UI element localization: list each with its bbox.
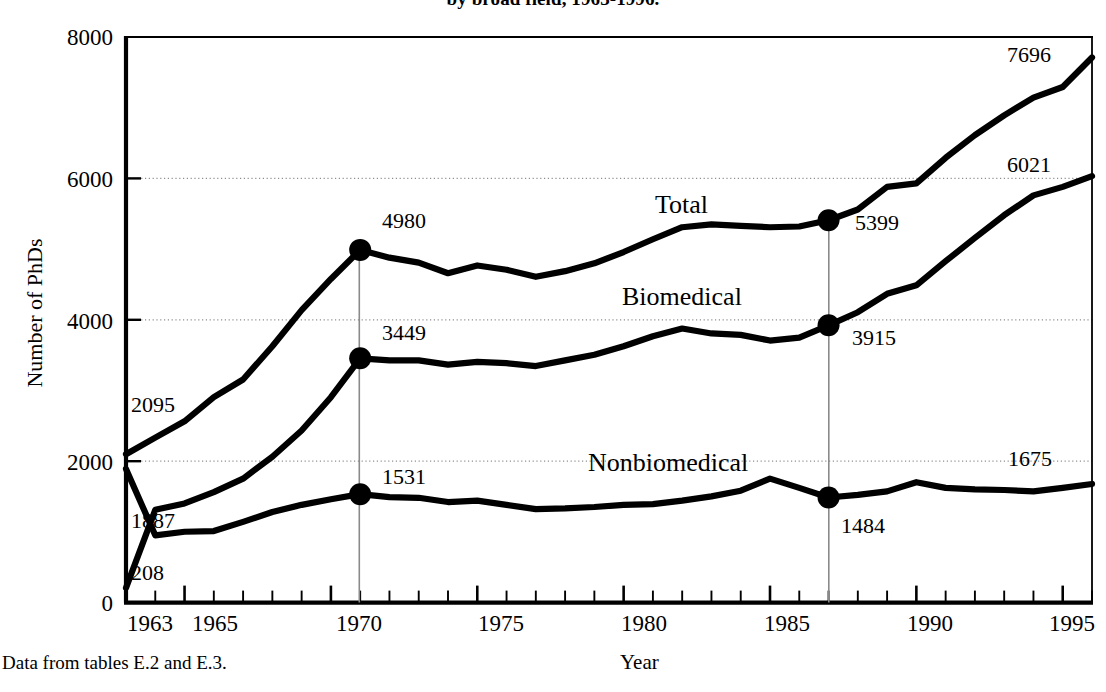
x-tick-label-1995: 1995: [1049, 611, 1095, 636]
value-label-3915: 3915: [852, 325, 896, 350]
marker-nonbiomedical-1971[interactable]: [349, 483, 371, 505]
value-label-4980: 4980: [382, 208, 426, 233]
x-tick-label-1980: 1980: [621, 611, 667, 636]
series-label-biomedical: Biomedical: [622, 282, 742, 311]
marker-biomedical-1971[interactable]: [349, 347, 371, 369]
value-label-5399: 5399: [855, 210, 899, 235]
x-tick-label-1970: 1970: [336, 611, 382, 636]
x-ticks: [126, 586, 1092, 602]
value-label-6021: 6021: [1007, 152, 1051, 177]
value-label-1887: 1887: [131, 508, 175, 533]
x-tick-label-1963: 1963: [127, 611, 173, 636]
value-label-1484: 1484: [841, 513, 885, 538]
series-line-biomedical[interactable]: [126, 176, 1092, 588]
value-label-1675: 1675: [1008, 446, 1052, 471]
reference-lines: [359, 221, 829, 603]
value-label-3449: 3449: [382, 320, 426, 345]
value-label-208: 208: [131, 560, 164, 585]
value-label-7696: 7696: [1007, 42, 1051, 67]
y-tick-label-4000: 4000: [67, 309, 113, 334]
phd-trend-figure: by broad field, 1963-1996. Number of PhD…: [0, 0, 1106, 692]
y-ticks: [126, 178, 141, 461]
chart-plot: 8000 6000 4000 2000 0 1963 1965 1970 197…: [0, 0, 1106, 692]
x-tick-label-1990: 1990: [907, 611, 953, 636]
data-series: [126, 58, 1092, 588]
gridlines: [126, 178, 1093, 461]
x-tick-label-1965: 1965: [192, 611, 238, 636]
value-label-2095: 2095: [131, 392, 175, 417]
marker-total-1987[interactable]: [818, 209, 840, 231]
series-line-nonbiomedical[interactable]: [126, 469, 1092, 535]
x-tick-label-1975: 1975: [478, 611, 524, 636]
y-tick-labels: 8000 6000 4000 2000 0: [67, 25, 113, 616]
marker-total-1971[interactable]: [349, 239, 371, 261]
series-label-total: Total: [655, 190, 708, 219]
series-line-total[interactable]: [126, 58, 1092, 455]
x-tick-label-1985: 1985: [764, 611, 810, 636]
value-label-1531: 1531: [382, 464, 426, 489]
series-label-nonbiomedical: Nonbiomedical: [588, 448, 748, 477]
y-tick-label-0: 0: [102, 591, 114, 616]
y-tick-label-8000: 8000: [67, 25, 113, 50]
y-tick-label-2000: 2000: [67, 450, 113, 475]
x-tick-labels: 1963 1965 1970 1975 1980 1985 1990 1995: [127, 611, 1095, 636]
marker-nonbiomedical-1987[interactable]: [818, 487, 840, 509]
marker-biomedical-1987[interactable]: [818, 314, 840, 336]
value-annotations: 2095 1887 208 4980 3449 1531 5399 3915 1…: [131, 42, 1052, 585]
y-tick-label-6000: 6000: [67, 167, 113, 192]
